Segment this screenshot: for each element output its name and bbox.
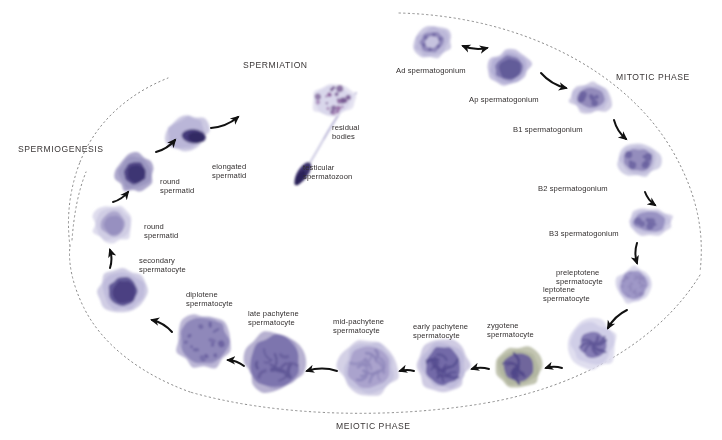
arrow-preleptotene-leptotene: [608, 310, 627, 328]
cell-elongated-spermatid: [159, 108, 215, 158]
phase-label-meiotic: MEIOTIC PHASE: [336, 421, 410, 431]
phase-label-spermiogenesis: SPERMIOGENESIS: [18, 144, 104, 154]
cell-b1-spermatogonium: [568, 79, 615, 116]
phase-boundary-layer: [0, 0, 722, 440]
cell-preleptotene-spermatocyte: [615, 266, 651, 304]
cell-leptotene-spermatocyte: [568, 318, 617, 370]
arrow-layer: [0, 0, 722, 440]
phase-label-mitotic: MITOTIC PHASE: [616, 72, 690, 82]
arrow-late-diplotene: [228, 360, 244, 366]
label-elongated-spermatid: elongated spermatid: [212, 162, 246, 181]
cell-round-spermatid-lower: [92, 206, 131, 244]
arrow-b3-preleptotene: [635, 243, 637, 263]
label-ad-spermatogonium: Ad spermatogonium: [396, 66, 466, 75]
arrow-ad-ap: [463, 46, 487, 49]
cell-ap-spermatogonium: [485, 45, 535, 88]
cell-round-spermatid-upper: [109, 148, 158, 197]
cell-ad-spermatogonium: [408, 19, 457, 64]
cell-residual-bodies: [308, 79, 359, 121]
cell-b3-spermatogonium: [629, 208, 673, 236]
cell-early-pachytene-spermatocyte: [417, 339, 471, 392]
cell-diplotene-spermatocyte: [176, 314, 231, 368]
arrow-ap-b1: [541, 73, 566, 88]
cell-b2-spermatogonium: [616, 142, 662, 178]
label-early-pachytene-spermatocyte: early pachytene spermatocyte: [413, 322, 468, 341]
phase-label-spermiation: SPERMIATION: [243, 60, 308, 70]
arrow-diplotene-secondary: [152, 320, 172, 332]
meiotic-arc-bottom: [190, 275, 700, 413]
label-mid-pachytene-spermatocyte: mid-pachytene spermatocyte: [333, 317, 384, 336]
spermiation-arc-inner: [72, 172, 86, 240]
label-diplotene-spermatocyte: diplotene spermatocyte: [186, 290, 233, 309]
label-b2-spermatogonium: B2 spermatogonium: [538, 184, 608, 193]
arrow-elongated-spermatozoon: [211, 117, 238, 128]
arrow-b2-b3: [645, 192, 655, 205]
label-preleptotene-spermatocyte: preleptotene spermatocyte: [556, 268, 603, 287]
arrow-secondary-round: [110, 250, 111, 268]
label-b3-spermatogonium: B3 spermatogonium: [549, 229, 619, 238]
spermiogenesis-arc: [68, 162, 80, 246]
arrow-early-mid: [400, 370, 414, 371]
arrow-round-elongated: [156, 140, 175, 152]
label-ap-spermatogonium: Ap spermatogonium: [469, 95, 539, 104]
arrow-round-round: [113, 192, 128, 202]
label-round-spermatid-lower: round spermatid: [144, 222, 178, 241]
label-late-pachytene-spermatocyte: late pachytene spermatocyte: [248, 309, 299, 328]
cell-mid-pachytene-spermatocyte: [336, 340, 398, 396]
arrow-mid-late: [307, 369, 337, 371]
label-zygotene-spermatocyte: zygotene spermatocyte: [487, 321, 534, 340]
label-residual-bodies: residual bodies: [332, 123, 359, 142]
cell-late-pachytene-spermatocyte: [244, 331, 307, 393]
label-testicular-spermatozoon: testicular spermatozoon: [303, 163, 352, 182]
spermatogenesis-diagram: Ad spermatogoniumAp spermatogoniumB1 spe…: [0, 0, 722, 440]
label-round-spermatid-upper: round spermatid: [160, 177, 194, 196]
cell-zygotene-spermatocyte: [496, 346, 543, 387]
arrow-zygotene-early: [472, 368, 489, 369]
label-leptotene-spermatocyte: leptotene spermatocyte: [543, 285, 590, 304]
cell-layer: [0, 0, 722, 440]
label-secondary-spermatocyte: secondary spermatocyte: [139, 256, 186, 275]
arrow-leptotene-zygotene: [546, 367, 562, 368]
label-b1-spermatogonium: B1 spermatogonium: [513, 125, 583, 134]
arrow-b1-b2: [614, 120, 626, 139]
